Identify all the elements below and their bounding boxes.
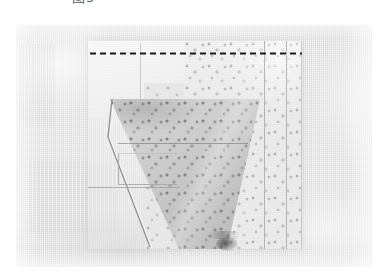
figure-caption: 图5 [72,0,95,5]
vertical-seam [301,41,302,249]
pocket-base-line [88,187,180,188]
vertical-seam [264,41,265,249]
garment-piece [88,41,302,249]
background-weave-hatching-secondary [20,44,56,126]
dark-smudge [216,237,238,251]
fabric-photograph [16,25,372,267]
pocket-outline [118,153,177,185]
dashed-guide-line [90,52,302,55]
vertical-seam [286,41,287,249]
fold-crease-line [118,143,248,144]
